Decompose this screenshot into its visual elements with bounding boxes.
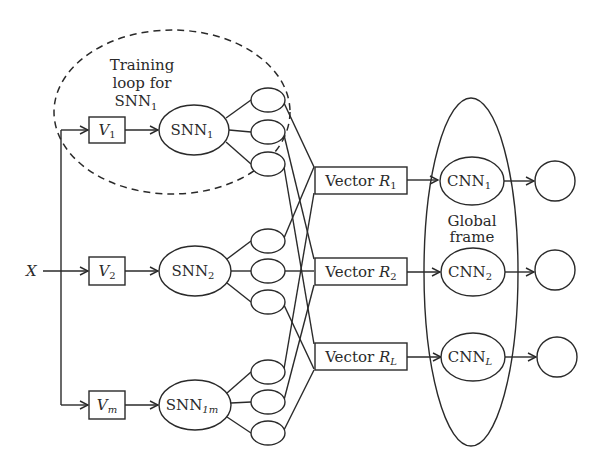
- vector-rl-box: Vector RL: [315, 343, 407, 370]
- training-loop-label-3: SNN1: [115, 92, 158, 112]
- neuron-group-1: [251, 88, 285, 176]
- snn-1-node: SNN1: [159, 105, 229, 155]
- v-box-2: V2: [89, 257, 125, 285]
- vector-r2-box: Vector R2: [315, 258, 407, 285]
- input-x-label: X: [25, 262, 38, 280]
- snn-2-node: SNN2: [159, 246, 231, 296]
- v-box-1: V1: [89, 117, 125, 143]
- neuron-to-vector-connections: [284, 103, 314, 430]
- output-node-2: [535, 250, 575, 290]
- cnn-l-node: CNNL: [441, 333, 505, 381]
- cnn-1-node: CNN1: [440, 157, 504, 205]
- snn-cnn-architecture-diagram: Training loop for SNN1 X V1 V2 Vm SNN1 S…: [0, 0, 595, 467]
- output-node-l: [537, 337, 577, 377]
- neuron-group-m: [251, 360, 285, 445]
- svg-text:CNN2: CNN2: [448, 263, 492, 282]
- cnn-2-node: CNN2: [441, 248, 505, 296]
- svg-text:SNN2: SNN2: [172, 262, 215, 281]
- svg-text:SNN1: SNN1: [171, 121, 214, 140]
- svg-text:Vector R2: Vector R2: [324, 263, 396, 282]
- snn-1m-node: SNN1m: [159, 380, 231, 430]
- svg-text:Vector R1: Vector R1: [324, 172, 396, 191]
- global-frame-label-2: frame: [450, 228, 495, 246]
- training-loop-label-1: Training: [110, 56, 175, 74]
- svg-text:CNN1: CNN1: [447, 172, 491, 191]
- vector-r1-box: Vector R1: [315, 167, 407, 194]
- training-loop-label-2: loop for: [113, 74, 173, 92]
- neuron-group-2: [251, 229, 285, 314]
- output-node-1: [535, 161, 575, 201]
- svg-text:Vector RL: Vector RL: [324, 348, 397, 367]
- v-box-m: Vm: [89, 391, 125, 419]
